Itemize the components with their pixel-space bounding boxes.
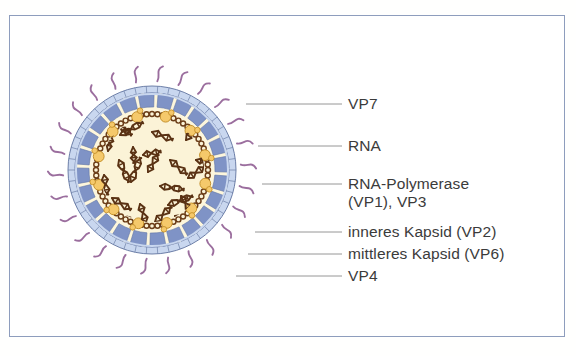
vp2-bead: [128, 219, 133, 224]
vp2-bead: [176, 217, 181, 222]
vp4-spike: [215, 99, 229, 107]
vp2-bead: [98, 146, 103, 151]
rna-polymerase-subunit: [189, 213, 195, 219]
rna-polymerase-subunit: [209, 155, 215, 161]
rna-polymerase-subunit: [104, 207, 110, 213]
vp4-spike: [94, 246, 106, 256]
rna-polymerase-complex: [107, 126, 118, 137]
vp4-spike: [141, 259, 147, 274]
vp2-bead: [100, 194, 105, 199]
rna-polymerase-subunit: [169, 110, 175, 116]
vp4-spike: [240, 186, 254, 193]
label-vp4: VP4: [348, 267, 378, 285]
vp4-spike: [91, 85, 98, 100]
vp4-spike: [166, 258, 169, 274]
vp4-spike: [61, 216, 76, 221]
vp4-spike: [233, 206, 245, 216]
rna-polymerase-subunit: [195, 127, 201, 133]
virus-particle: [48, 66, 256, 273]
vp2-bead: [94, 162, 99, 167]
vp4-spike: [48, 172, 63, 176]
figure-page: VP7 RNA RNA-Polymerase (VP1), VP3 innere…: [0, 0, 576, 356]
vp4-spike: [157, 66, 163, 81]
vp2-bead: [150, 224, 155, 229]
rna-polymerase-complex: [108, 204, 119, 215]
vp4-spike: [112, 73, 116, 89]
rna-polymerase-subunit: [92, 148, 98, 154]
vp4-spike: [237, 141, 253, 144]
vp4-spike: [178, 72, 187, 85]
vp4-spike: [135, 67, 138, 83]
vp4-spike: [207, 240, 214, 255]
vp4-spike: [198, 83, 210, 93]
vp6-inner-block: [214, 156, 228, 172]
vp2-bead: [155, 112, 160, 117]
rna-polymerase-subunit: [137, 108, 143, 114]
rna-polymerase-subunit: [109, 122, 115, 128]
vp2-bead: [94, 168, 99, 173]
vp2-bead: [94, 173, 99, 178]
vp2-bead: [199, 141, 204, 146]
vp4-spike: [51, 196, 67, 199]
vp4-spike: [73, 102, 82, 115]
vp4-spike: [117, 255, 126, 268]
vp4-spike: [51, 147, 65, 154]
vp4-spike: [75, 233, 89, 241]
vp2-bead: [123, 118, 128, 123]
vp4-spike: [222, 225, 231, 238]
vp2-bead: [201, 189, 206, 194]
vp6-inner-block: [76, 168, 90, 184]
vp6-inner-block: [138, 94, 154, 108]
rna-polymerase-subunit: [90, 179, 96, 185]
rna-polymerase-subunit: [207, 187, 213, 193]
rotavirus-diagram: [0, 0, 576, 356]
label-rna: RNA: [348, 137, 381, 155]
vp2-bead: [205, 173, 210, 178]
vp4-spike: [59, 123, 71, 133]
vp4-spike: [189, 251, 193, 267]
vp2-bead: [144, 223, 149, 228]
vp2-bead: [150, 112, 155, 117]
vp2-bead: [206, 168, 211, 173]
vp2-bead: [144, 112, 149, 117]
vp6-inner-block: [150, 232, 166, 246]
label-inneres-kapsid: inneres Kapsid (VP2): [348, 223, 496, 241]
rna-polymerase-subunit: [130, 225, 136, 231]
vp2-bead: [155, 223, 160, 228]
vp2-bead: [205, 162, 210, 167]
label-rna-polymerase: RNA-Polymerase: [348, 175, 469, 193]
vp4-spike: [228, 119, 243, 124]
vp4-spike: [241, 165, 256, 169]
vp2-bead: [171, 116, 176, 121]
label-vp7: VP7: [348, 95, 378, 113]
rna-polymerase-subunit: [161, 227, 167, 233]
label-mittleres-kapsid: mittleres Kapsid (VP6): [348, 245, 504, 263]
label-rna-polymerase-sub: (VP1), VP3: [348, 193, 427, 211]
